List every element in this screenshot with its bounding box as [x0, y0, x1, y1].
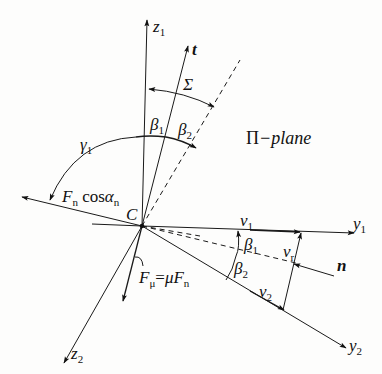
normal-force-label: Fn cosαn: [61, 187, 120, 208]
gamma1-label: γ1: [80, 135, 92, 156]
t-label: t: [192, 40, 198, 59]
n-normal-arrow: [294, 264, 334, 276]
sigma-angle-arc: [149, 89, 214, 107]
friction-force-label: Fμ=μFn: [138, 268, 190, 289]
beta1-arc-top: [136, 136, 166, 137]
plane-label: Π−plane: [246, 128, 311, 148]
origin-point: [140, 224, 145, 229]
z1-axis: [142, 20, 147, 226]
n-label: n: [337, 256, 346, 275]
y2-label: y2: [347, 336, 362, 357]
z1-label: z1: [152, 17, 165, 38]
beta2-label-top: β2: [177, 120, 192, 141]
friction-angle-arc: [135, 257, 143, 266]
v1-label: v1: [240, 211, 253, 232]
vr-label: vr: [283, 242, 295, 263]
beta1-arc-bottom: [236, 231, 239, 256]
diagram-canvas: z1 t Σ β1 β2 γ1 Π−plane Fn cosαn C v1 y1…: [0, 0, 382, 374]
z2-axis: [64, 226, 142, 363]
v2-label: v2: [259, 282, 272, 303]
beta1-label-top: β1: [149, 115, 164, 136]
origin-label: C: [126, 205, 138, 224]
sigma-label: Σ: [182, 75, 193, 94]
beta1-label-bottom: β1: [243, 235, 258, 256]
friction-force-arrow: [123, 226, 142, 301]
y1-label: y1: [351, 214, 366, 235]
z2-label: z2: [70, 344, 83, 365]
force-velocity-diagram: z1 t Σ β1 β2 γ1 Π−plane Fn cosαn C v1 y1…: [0, 0, 382, 374]
beta2-label-bottom: β2: [233, 259, 248, 280]
